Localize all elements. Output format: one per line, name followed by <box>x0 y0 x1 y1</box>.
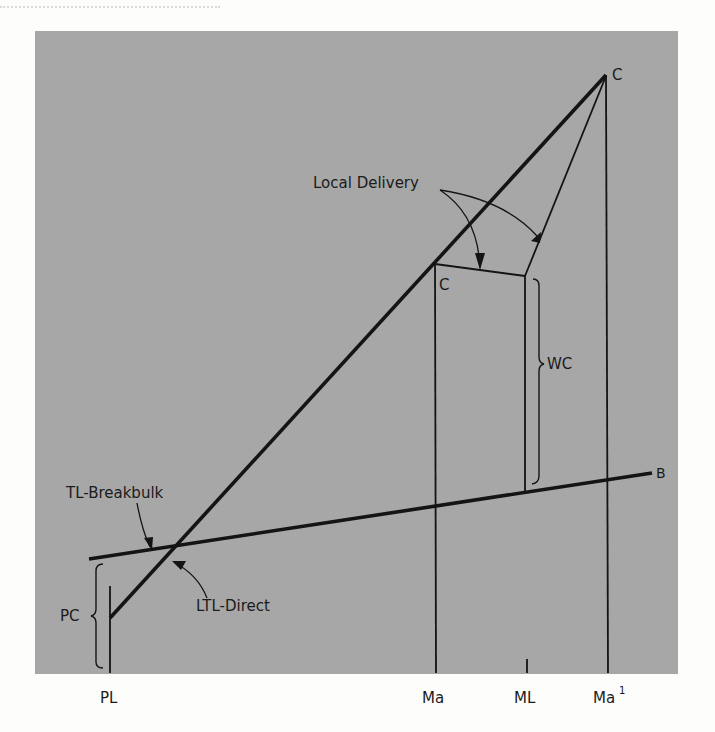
wc-label: WC <box>547 355 572 373</box>
diagram-panel <box>35 31 678 674</box>
axis-label-ml: ML <box>514 689 536 707</box>
axis-label-ma1: Ma <box>593 689 615 707</box>
point-c-mid-label: C <box>439 276 449 294</box>
point-b-label: B <box>656 465 666 481</box>
tl-breakbulk-label: TL-Breakbulk <box>65 484 164 502</box>
axis-label-ma1-superscript: 1 <box>619 685 625 696</box>
pc-label: PC <box>60 607 80 625</box>
distribution-cost-diagram: Local Delivery TL-Breakbulk LTL-Direct W… <box>0 0 715 732</box>
ma-vertical-line <box>435 264 436 673</box>
ltl-direct-label: LTL-Direct <box>196 597 270 615</box>
axis-label-pl: PL <box>100 689 118 707</box>
point-c-top-label: C <box>612 66 622 84</box>
local-delivery-label: Local Delivery <box>313 174 419 192</box>
figure-page: Local Delivery TL-Breakbulk LTL-Direct W… <box>0 0 715 732</box>
axis-label-ma: Ma <box>422 689 444 707</box>
